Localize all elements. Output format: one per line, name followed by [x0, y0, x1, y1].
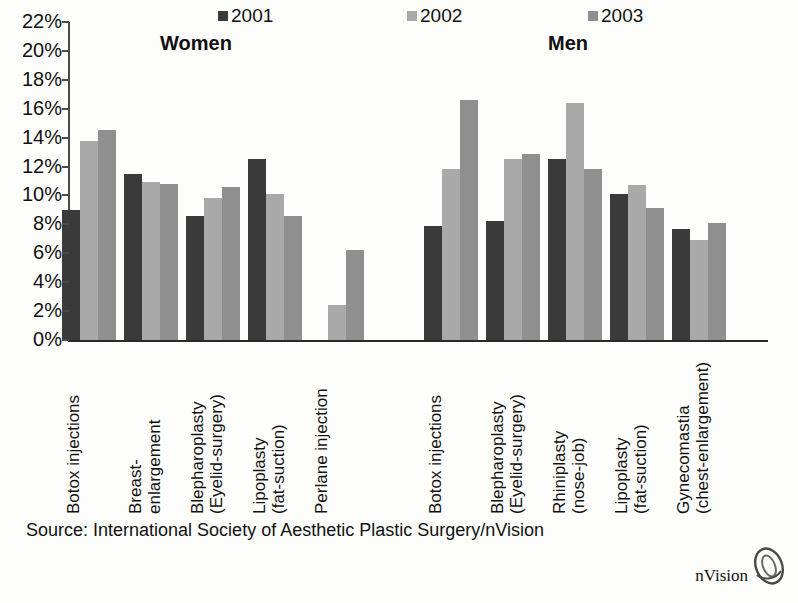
bar: [646, 208, 664, 340]
x-tick-label: Blepharoplasty (Eyelid-surgery): [188, 344, 226, 514]
brand-label: nVision: [695, 566, 748, 586]
bar: [346, 250, 364, 340]
x-tick-label: Rhiniplasty (nose-job): [550, 344, 588, 514]
bar: [204, 198, 222, 340]
bar: [98, 130, 116, 340]
y-tick-label: 18%: [2, 69, 62, 89]
y-tick-mark: [62, 21, 69, 23]
bar: [442, 169, 460, 340]
y-tick-label: 2%: [2, 300, 62, 320]
bar: [80, 141, 98, 340]
y-tick-label: 6%: [2, 242, 62, 262]
source-note: Source: International Society of Aesthet…: [26, 520, 544, 541]
y-tick-mark: [62, 310, 69, 312]
bar: [548, 159, 566, 340]
bar: [424, 226, 442, 340]
x-tick-label: Gynecomastia (chest-enlargement): [674, 344, 712, 514]
y-tick-mark: [62, 339, 69, 341]
bar: [610, 194, 628, 340]
x-tick-label: Breast- enlargement: [126, 344, 164, 514]
y-tick-label: 20%: [2, 40, 62, 60]
x-tick-label: Blepharoplasty (Eyelid-surgery): [488, 344, 526, 514]
x-axis-line: [68, 340, 768, 342]
plot-area: [68, 22, 778, 340]
y-tick-label: 8%: [2, 213, 62, 233]
bar: [566, 103, 584, 340]
bar: [222, 187, 240, 340]
y-tick-label: 16%: [2, 98, 62, 118]
y-tick-label: 22%: [2, 11, 62, 31]
y-tick-mark: [62, 166, 69, 168]
y-tick-mark: [62, 108, 69, 110]
y-tick-mark: [62, 50, 69, 52]
y-tick-mark: [62, 137, 69, 139]
x-tick-label: Botox injections: [64, 344, 83, 514]
x-tick-label: Lipoplasty (fat-suction): [250, 344, 288, 514]
y-tick-label: 10%: [2, 184, 62, 204]
legend-swatch-icon: [407, 11, 417, 21]
x-tick-label: Perlane injection: [312, 344, 331, 514]
y-tick-label: 4%: [2, 271, 62, 291]
bar: [504, 159, 522, 340]
bar: [672, 229, 690, 340]
x-axis-labels: Botox injectionsBreast- enlargementBleph…: [0, 344, 798, 514]
y-tick-label: 12%: [2, 156, 62, 176]
y-tick-label: 14%: [2, 127, 62, 147]
bar: [328, 305, 346, 340]
bar: [486, 221, 504, 340]
y-tick-mark: [62, 252, 69, 254]
y-axis-labels: 22%20%18%16%14%12%10%8%6%4%2%0%: [0, 0, 62, 362]
x-tick-label: Lipoplasty (fat-suction): [612, 344, 650, 514]
bar: [284, 216, 302, 340]
bar: [62, 210, 80, 340]
bar: [522, 154, 540, 340]
bar: [248, 159, 266, 340]
bar: [628, 185, 646, 340]
panel-title-men: Men: [548, 32, 588, 55]
bar: [460, 100, 478, 340]
bar: [584, 169, 602, 340]
bar: [186, 216, 204, 340]
nvision-logo-icon: [748, 545, 790, 587]
bar: [142, 182, 160, 340]
legend-swatch-icon: [218, 11, 228, 21]
y-tick-mark: [62, 223, 69, 225]
bar: [690, 240, 708, 340]
panel-title-women: Women: [160, 32, 232, 55]
bar: [124, 174, 142, 340]
bar-chart: 200120022003 22%20%18%16%14%12%10%8%6%4%…: [0, 0, 798, 603]
y-tick-mark: [62, 79, 69, 81]
bar: [160, 184, 178, 340]
legend-swatch-icon: [588, 11, 598, 21]
y-tick-mark: [62, 281, 69, 283]
bar: [266, 194, 284, 340]
bar: [708, 223, 726, 340]
x-tick-label: Botox injections: [426, 344, 445, 514]
y-tick-mark: [62, 194, 69, 196]
